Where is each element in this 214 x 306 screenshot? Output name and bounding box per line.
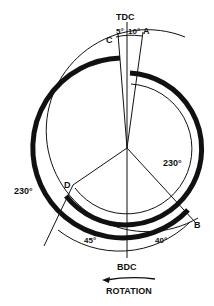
bdc-to-b-angle: 40° xyxy=(155,236,167,245)
point-c-label: C xyxy=(106,35,113,45)
point-d-label: D xyxy=(64,180,71,190)
rotation-arrowhead-icon xyxy=(102,277,110,283)
line-c xyxy=(118,34,127,148)
tdc-to-a-angle: 10° xyxy=(128,27,140,36)
c-to-tdc-angle: 5° xyxy=(116,27,124,36)
outer-duration-label: 230° xyxy=(14,186,33,196)
point-a-label: A xyxy=(143,26,150,36)
point-b-label: B xyxy=(194,220,201,230)
tdc-label: TDC xyxy=(116,12,135,22)
bdc-label: BDC xyxy=(117,262,137,272)
d-to-bdc-angle: 45° xyxy=(84,236,96,245)
valve-timing-diagram: TDC C 5° 10° A 230° 230° D B 45° 40° BDC… xyxy=(0,0,214,306)
line-d xyxy=(73,148,127,185)
line-a xyxy=(127,32,143,148)
rotation-label: ROTATION xyxy=(106,286,152,296)
line-b xyxy=(127,148,195,222)
rotation-arrow xyxy=(106,278,155,280)
inner-duration-label: 230° xyxy=(163,158,182,168)
